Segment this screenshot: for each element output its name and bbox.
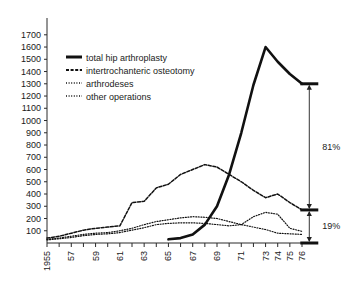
- y-tick-label-500: 500: [26, 177, 41, 187]
- chart-legend: total hip arthroplastyintertrochanteric …: [66, 53, 195, 102]
- y-tick-label-1600: 1600: [21, 42, 41, 52]
- annotation-arrow-up-1: [307, 211, 312, 216]
- y-tick-label-1400: 1400: [21, 67, 41, 77]
- y-tick-label-700: 700: [26, 152, 41, 162]
- x-tick-marks: [47, 243, 302, 247]
- series-total-hip-arthroplasty: [168, 47, 302, 239]
- y-tick-labels: 1002003004005006007008009001000110012001…: [21, 30, 41, 236]
- y-tick-label-1000: 1000: [21, 116, 41, 126]
- annotation-arrow-down-1: [307, 237, 312, 242]
- series-other-operations: [47, 212, 302, 240]
- chart-page: 1002003004005006007008009001000110012001…: [0, 0, 358, 294]
- legend-label-0: total hip arthroplasty: [86, 53, 168, 63]
- x-tick-label-1959: 59: [91, 251, 101, 261]
- y-axis-group: 1002003004005006007008009001000110012001…: [21, 18, 47, 243]
- x-tick-label-1961: 61: [115, 251, 125, 261]
- y-tick-label-300: 300: [26, 201, 41, 211]
- x-tick-label-1975: 75: [285, 251, 295, 261]
- y-tick-label-1300: 1300: [21, 79, 41, 89]
- x-tick-label-1955: 1955: [42, 251, 52, 271]
- x-tick-label-1963: 63: [139, 251, 149, 261]
- y-tick-label-1700: 1700: [21, 30, 41, 40]
- series-intertrochanteric-osteotomy: [47, 165, 302, 238]
- y-tick-label-400: 400: [26, 189, 41, 199]
- legend-label-3: other operations: [86, 92, 152, 102]
- x-tick-label-1971: 71: [236, 251, 246, 261]
- y-tick-label-900: 900: [26, 128, 41, 138]
- x-tick-label-1973: 73: [261, 251, 271, 261]
- annotation-label-81%: 81%: [322, 142, 340, 152]
- x-tick-label-1957: 57: [66, 251, 76, 261]
- x-tick-label-1969: 69: [212, 251, 222, 261]
- annotation-arrow-up-0: [307, 85, 312, 90]
- series-lines: [47, 47, 302, 240]
- y-tick-label-600: 600: [26, 165, 41, 175]
- y-tick-label-100: 100: [26, 226, 41, 236]
- y-tick-label-1200: 1200: [21, 91, 41, 101]
- y-tick-label-1100: 1100: [22, 103, 41, 113]
- percentage-annotations: 81%19%: [300, 84, 340, 243]
- legend-label-2: arthrodeses: [86, 79, 134, 89]
- y-tick-label-1500: 1500: [21, 54, 41, 64]
- x-axis-group: 1955575961636567697173747576: [42, 243, 318, 271]
- y-tick-label-200: 200: [26, 214, 41, 224]
- x-tick-label-1967: 67: [188, 251, 198, 261]
- x-tick-label-1965: 65: [163, 251, 173, 261]
- series-arthrodeses: [47, 217, 302, 240]
- line-chart: 1002003004005006007008009001000110012001…: [0, 0, 358, 294]
- x-tick-label-1976: 76: [297, 251, 307, 261]
- annotation-arrow-down-0: [307, 204, 312, 209]
- annotation-label-19%: 19%: [322, 221, 340, 231]
- x-tick-label-1974: 74: [273, 251, 283, 261]
- y-tick-label-800: 800: [26, 140, 41, 150]
- x-tick-labels: 1955575961636567697173747576: [42, 251, 307, 271]
- legend-label-1: intertrochanteric osteotomy: [86, 66, 195, 76]
